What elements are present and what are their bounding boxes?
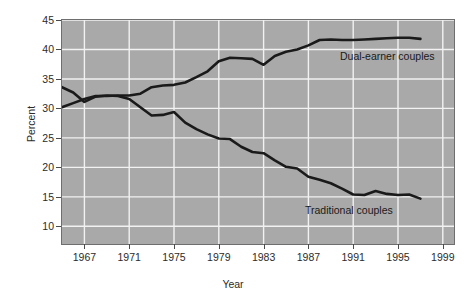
y-axis-tick-mark [56,138,61,139]
y-axis-title: Percent [25,84,37,164]
y-axis-tick-label: 10 [28,221,54,231]
y-axis-tick-mark [56,167,61,168]
y-axis-tick-label: 40 [28,44,54,54]
chart-figure: 4540353025201510196719711975197919831987… [0,0,475,301]
y-axis-tick-mark [56,226,61,227]
y-axis-tick-mark [56,197,61,198]
x-axis-tick-mark [443,244,444,249]
y-axis-tick-mark [56,108,61,109]
x-axis-tick-mark [219,244,220,249]
y-axis-tick-mark [56,79,61,80]
y-axis-tick-label: 35 [28,74,54,84]
y-axis-tick-mark [56,20,61,21]
series-label-traditional: Traditional couples [305,204,393,216]
x-axis-tick-mark [84,244,85,249]
x-axis-tick-label: 1967 [64,252,104,263]
series-label-dual-earner: Dual-earner couples [340,50,435,62]
y-axis-tick-label: 15 [28,192,54,202]
x-axis-tick-label: 1987 [288,252,328,263]
x-axis-tick-label: 1983 [244,252,284,263]
x-axis-tick-label: 1975 [154,252,194,263]
x-axis-tick-mark [308,244,309,249]
series-line-traditional [62,87,420,198]
x-axis-tick-mark [353,244,354,249]
x-axis-tick-label: 1979 [199,252,239,263]
x-axis-tick-mark [264,244,265,249]
x-axis-tick-mark [129,244,130,249]
x-axis-tick-label: 1991 [333,252,373,263]
x-axis-tick-label: 1995 [378,252,418,263]
x-axis-tick-label: 1999 [423,252,463,263]
x-axis-tick-label: 1971 [109,252,149,263]
y-axis-tick-mark [56,49,61,50]
x-axis-tick-mark [174,244,175,249]
x-axis-title: Year [198,278,268,290]
x-axis-tick-mark [398,244,399,249]
y-axis-tick-label: 45 [28,15,54,25]
